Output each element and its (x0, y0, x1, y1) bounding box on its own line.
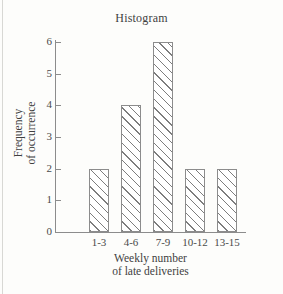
histogram-bar (153, 42, 173, 232)
histogram-bar (89, 169, 109, 232)
y-axis-tick-label: 6 (36, 36, 52, 47)
y-axis-tick-label: 3 (36, 131, 52, 142)
y-axis-tick-label: 0 (36, 226, 52, 237)
y-axis-title: Frequency of occurrence (12, 68, 38, 198)
y-axis-title-line-1: Frequency (12, 68, 25, 198)
page-edge-artifact (2, 0, 3, 294)
histogram-bar (121, 105, 141, 232)
x-axis-tick-label: 13-15 (207, 236, 247, 248)
chart-title: Histogram (0, 11, 283, 26)
histogram-figure: Histogram 0123456 1-34-67-910-1213-15 We… (0, 0, 283, 294)
x-axis-title-line-2: of late deliveries (55, 265, 246, 278)
y-axis-tick-label: 4 (36, 99, 52, 110)
histogram-bar (185, 169, 205, 232)
x-axis-line (55, 232, 246, 233)
plot-area (55, 42, 245, 232)
y-axis-tick-label: 1 (36, 194, 52, 205)
y-axis-title-line-2: of occurrence (25, 68, 38, 198)
histogram-bar (217, 169, 237, 232)
y-axis-tick-label: 5 (36, 68, 52, 79)
y-axis-tick (56, 232, 61, 233)
y-axis-tick-label: 2 (36, 163, 52, 174)
x-axis-title: Weekly number of late deliveries (55, 252, 246, 278)
x-axis-title-line-1: Weekly number (55, 252, 246, 265)
